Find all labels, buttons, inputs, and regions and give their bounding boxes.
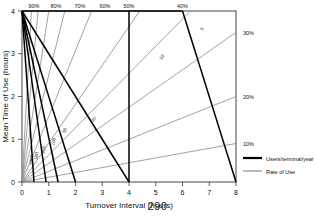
page-number: 290 [0,200,315,212]
x-tick-label: 6 [181,189,185,196]
right-label-10: 10% [243,141,254,147]
figure-container: 0 1 2 3 4 5 6 7 8 Turnover Interval (hou… [0,0,315,223]
x-tick-label: 5 [154,189,158,196]
y-tick-label: 0 [11,179,15,186]
y-tick-label: 3 [11,50,15,57]
top-label-80: 80% [50,3,61,9]
top-label-50: 50% [123,3,134,9]
right-label-30: 30% [243,30,254,36]
top-label-40: 40% [177,3,188,9]
y-tick-label: 1 [11,136,15,143]
x-tick-label: 2 [74,189,78,196]
top-label-70: 70% [74,3,85,9]
y-tick-label: 2 [11,93,15,100]
legend-label-users: Users/terminal/year [266,156,314,162]
legend: Users/terminal/year Rate of Use [243,156,314,175]
y-axis-label: Mean Time of Use (hours) [1,50,10,143]
y-axis: 0 1 2 3 4 Mean Time of Use (hours) [1,8,22,186]
x-tick-label: 1 [47,189,51,196]
x-tick-label: 7 [207,189,211,196]
legend-label-rate: Rate of Use [266,169,295,175]
nomogram-chart: 0 1 2 3 4 5 6 7 8 Turnover Interval (hou… [0,0,315,223]
top-percent-labels: 90% 80% 70% 60% 50% 40% [28,3,188,9]
x-tick-label: 3 [100,189,104,196]
y-ticks [18,11,22,182]
right-label-20: 20% [243,94,254,100]
x-tick-label: 0 [20,189,24,196]
y-tick-label: 4 [11,8,15,15]
top-label-90: 90% [28,3,39,9]
x-tick-label: 8 [234,189,238,196]
x-tick-label: 4 [127,189,131,196]
right-percent-labels: 30% 20% 10% [243,30,254,147]
x-ticks [22,182,236,186]
top-label-60: 60% [99,3,110,9]
inline-label-500: 500 [34,151,40,160]
